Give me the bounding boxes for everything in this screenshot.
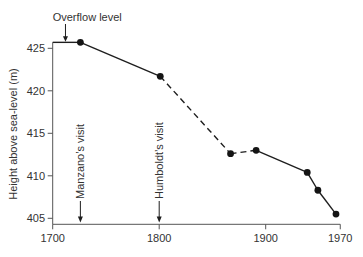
data-point-marker bbox=[333, 211, 340, 218]
y-tick-label: 425 bbox=[27, 42, 45, 54]
visit-label: Manzano’s visit bbox=[74, 124, 86, 199]
arrow-down-icon bbox=[78, 217, 83, 223]
x-tick-label: 1970 bbox=[328, 232, 352, 244]
series-lake-level bbox=[77, 39, 339, 218]
visit-label: Humboldt’s visit bbox=[153, 122, 165, 199]
data-point-marker bbox=[77, 39, 84, 46]
y-axis-label: Height above sea-level (m) bbox=[7, 68, 19, 199]
data-point-marker bbox=[314, 187, 321, 194]
x-tick-label: 1900 bbox=[253, 232, 277, 244]
solid-segment bbox=[80, 42, 160, 76]
y-tick-label: 405 bbox=[27, 212, 45, 224]
visit-annotation: Humboldt’s visit bbox=[153, 122, 165, 222]
arrow-down-icon bbox=[63, 36, 68, 42]
overflow-level-annotation: Overflow level bbox=[53, 11, 122, 43]
y-tick-label: 415 bbox=[27, 127, 45, 139]
y-tick-label: 410 bbox=[27, 170, 45, 182]
x-tick-label: 1800 bbox=[147, 232, 171, 244]
data-point-marker bbox=[157, 73, 164, 80]
data-point-marker bbox=[253, 147, 260, 154]
data-point-marker bbox=[227, 150, 234, 157]
x-tick-label: 1700 bbox=[40, 232, 64, 244]
dashed-segment bbox=[160, 76, 230, 153]
lake-level-chart: 1700180019001970405410415420425Height ab… bbox=[0, 0, 363, 257]
y-tick-label: 420 bbox=[27, 85, 45, 97]
visit-annotation: Manzano’s visit bbox=[74, 124, 86, 223]
overflow-level-label: Overflow level bbox=[53, 11, 122, 23]
chart-container: 1700180019001970405410415420425Height ab… bbox=[0, 0, 363, 257]
solid-segment bbox=[318, 190, 336, 214]
data-point-marker bbox=[304, 169, 311, 176]
solid-segment bbox=[256, 150, 307, 172]
dashed-segment bbox=[231, 150, 257, 153]
arrow-down-icon bbox=[157, 217, 162, 223]
